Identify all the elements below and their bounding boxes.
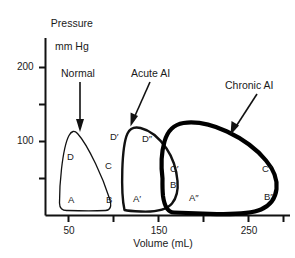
x-tick-label-150: 150 xyxy=(145,225,173,236)
x-tick-label-250: 250 xyxy=(235,225,263,236)
point-label-A-prime: A′ xyxy=(133,194,141,205)
annotation-normal: Normal xyxy=(61,68,95,80)
point-label-C: C xyxy=(105,161,112,172)
point-label-D-double-prime: D″ xyxy=(142,134,152,145)
point-label-B-double-prime: B″ xyxy=(264,192,274,203)
y-axis-title: Pressure mm Hg xyxy=(26,6,106,65)
arrow-acute-ai xyxy=(131,82,151,127)
point-label-A-double-prime: A″ xyxy=(189,193,199,204)
y-axis-title-line1: Pressure xyxy=(51,17,93,29)
point-label-C-prime: C′ xyxy=(170,164,179,175)
arrow-chronic-ai xyxy=(231,94,258,135)
point-label-B: B xyxy=(106,195,112,206)
annotation-acute-ai: Acute AI xyxy=(131,68,170,80)
arrow-normal xyxy=(76,82,84,132)
annotation-chronic-ai: Chronic AI xyxy=(225,80,273,92)
point-label-A: A xyxy=(68,195,74,206)
point-label-C-double-prime: C″ xyxy=(262,164,272,175)
pressure-volume-loop-figure: Pressure mm Hg Volume (mL) 200 100 50 15… xyxy=(0,0,295,258)
point-label-D: D xyxy=(67,152,74,163)
y-tick-label-200: 200 xyxy=(17,61,34,72)
x-tick-label-50: 50 xyxy=(56,225,82,236)
y-axis-title-line2: mm Hg xyxy=(55,40,89,52)
y-tick-label-100: 100 xyxy=(17,135,34,146)
x-axis-title: Volume (mL) xyxy=(118,238,208,250)
point-label-B-prime: B′ xyxy=(170,180,178,191)
point-label-D-prime: D′ xyxy=(110,132,119,143)
